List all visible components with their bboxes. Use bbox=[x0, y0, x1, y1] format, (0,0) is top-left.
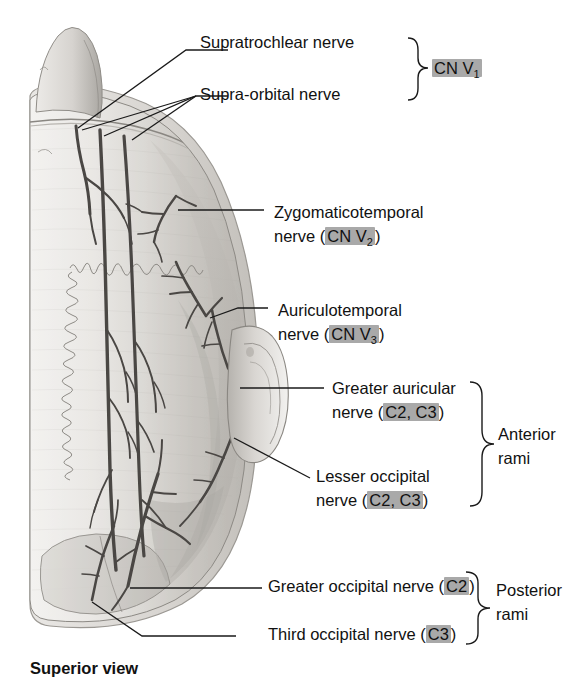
badge-cn-v2-text: CN V bbox=[327, 227, 366, 245]
badge-cn-v3: CN V3 bbox=[329, 325, 379, 343]
lo-suffix: ) bbox=[423, 491, 429, 509]
label-supratrochlear-nerve: Supratrochlear nerve bbox=[200, 32, 354, 52]
to-prefix: Third occipital nerve ( bbox=[268, 625, 426, 643]
posterior-rami-text2: rami bbox=[496, 605, 528, 623]
anterior-rami-text1: Anterior bbox=[498, 425, 556, 443]
badge-cn-v1: CN V1 bbox=[432, 59, 482, 77]
badge-c2-greater-occipital: C2 bbox=[444, 577, 469, 595]
label-greater-auricular-line1: Greater auricular bbox=[332, 379, 456, 397]
label-posterior-rami-line1: Posterior bbox=[496, 580, 562, 600]
label-supraorbital-text: Supra-orbital nerve bbox=[200, 85, 340, 103]
badge-cn-v2-subscript: 2 bbox=[367, 236, 373, 248]
label-lesser-occipital-line2: nerve (C2, C3) bbox=[316, 490, 428, 510]
go-prefix: Greater occipital nerve ( bbox=[268, 577, 444, 595]
anatomical-figure: Supratrochlear nerve Supra-orbital nerve… bbox=[0, 0, 585, 696]
go-suffix: ) bbox=[469, 577, 475, 595]
braces bbox=[408, 38, 494, 644]
label-cn-v1: CN V1 bbox=[432, 58, 482, 84]
ga-prefix: nerve ( bbox=[332, 403, 383, 421]
label-lesser-occipital-nerve: Lesser occipital bbox=[316, 466, 430, 486]
badge-c3-third-occipital: C3 bbox=[426, 625, 451, 643]
lo-prefix: nerve ( bbox=[316, 491, 367, 509]
label-auriculotemporal-nerve: Auriculotemporal bbox=[278, 300, 402, 320]
badge-cn-v3-text: CN V bbox=[331, 325, 370, 343]
anterior-rami-text2: rami bbox=[498, 449, 530, 467]
badge-to-text: C3 bbox=[428, 625, 449, 643]
badge-cn-v1-text: CN V bbox=[434, 59, 473, 77]
label-anterior-rami-line2: rami bbox=[498, 448, 530, 468]
auri-prefix: nerve ( bbox=[278, 325, 329, 343]
label-posterior-rami-line2: rami bbox=[496, 604, 528, 624]
label-zygomaticotemporal-line2: nerve (CN V2) bbox=[274, 226, 380, 252]
badge-cn-v1-subscript: 1 bbox=[473, 68, 479, 80]
badge-go-text: C2 bbox=[446, 577, 467, 595]
zygo-prefix: nerve ( bbox=[274, 227, 325, 245]
badge-cn-v2: CN V2 bbox=[325, 227, 375, 245]
label-supratrochlear-text: Supratrochlear nerve bbox=[200, 33, 354, 51]
label-auriculotemporal-line1: Auriculotemporal bbox=[278, 301, 402, 319]
label-zygomaticotemporal-line1: Zygomaticotemporal bbox=[274, 203, 423, 221]
label-greater-auricular-nerve: Greater auricular bbox=[332, 378, 456, 398]
brace-cn-v1 bbox=[408, 38, 428, 100]
brace-anterior-rami bbox=[470, 382, 494, 506]
label-supraorbital-nerve: Supra-orbital nerve bbox=[200, 84, 340, 104]
badge-ga-text: C2, C3 bbox=[385, 403, 436, 421]
label-lesser-occipital-line1: Lesser occipital bbox=[316, 467, 430, 485]
label-third-occipital-nerve: Third occipital nerve (C3) bbox=[268, 624, 456, 644]
figure-caption-text: Superior view bbox=[30, 659, 138, 677]
label-zygomaticotemporal-nerve: Zygomaticotemporal bbox=[274, 202, 423, 222]
to-suffix: ) bbox=[451, 625, 457, 643]
badge-lo-text: C2, C3 bbox=[369, 491, 420, 509]
zygo-suffix: ) bbox=[375, 227, 381, 245]
ga-suffix: ) bbox=[439, 403, 445, 421]
badge-cn-v3-subscript: 3 bbox=[371, 334, 377, 346]
label-auriculotemporal-line2: nerve (CN V3) bbox=[278, 324, 384, 350]
label-greater-occipital-nerve: Greater occipital nerve (C2) bbox=[268, 576, 475, 596]
posterior-rami-text1: Posterior bbox=[496, 581, 562, 599]
figure-caption: Superior view bbox=[30, 658, 138, 678]
badge-c2-c3-greater-auricular: C2, C3 bbox=[383, 403, 438, 421]
label-greater-auricular-line2: nerve (C2, C3) bbox=[332, 402, 444, 422]
label-anterior-rami-line1: Anterior bbox=[498, 424, 556, 444]
badge-c2-c3-lesser-occipital: C2, C3 bbox=[367, 491, 422, 509]
auri-suffix: ) bbox=[379, 325, 385, 343]
